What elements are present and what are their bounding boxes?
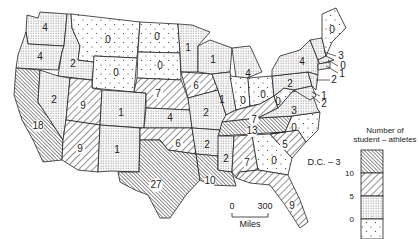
label-NE: 7 (155, 88, 161, 99)
scale-bar: 0 300 Miles (229, 201, 272, 229)
label-IA: 6 (193, 80, 199, 91)
label-GA: 0 (271, 155, 277, 166)
legend-bin-5-10 (361, 173, 383, 196)
label-CO: 1 (118, 107, 124, 118)
label-NJ: 2 (331, 74, 337, 85)
label-MS: 2 (223, 153, 229, 164)
label-MD: 2 (321, 98, 327, 109)
legend-bin-gt10 (361, 150, 383, 173)
label-PA: 2 (287, 78, 293, 89)
us-map: 4 4 2 0 0 2 18 9 9 1 1 0 0 7 4 6 27 1 6 … (0, 0, 419, 239)
label-OK: 6 (175, 138, 181, 149)
label-NY: 4 (299, 56, 305, 67)
legend-title-1: Number of (366, 126, 404, 135)
label-WV: 0 (275, 96, 281, 107)
label-NC: 0 (291, 122, 297, 133)
label-SD: 0 (157, 60, 163, 71)
legend: Number of student – athletes 10 5 0 (345, 126, 416, 239)
label-NV: 2 (51, 94, 57, 105)
label-AL: 7 (244, 157, 250, 168)
label-OR: 4 (37, 51, 43, 62)
scale-end: 300 (257, 201, 272, 211)
state-NY (272, 40, 318, 76)
label-MT: 0 (105, 34, 111, 45)
label-AZ: 9 (77, 143, 83, 154)
label-IL: 1 (219, 94, 225, 105)
label-NM: 1 (114, 144, 120, 155)
legend-tick-0: 0 (350, 215, 355, 224)
label-ME: 0 (329, 24, 335, 35)
label-ID: 2 (70, 58, 76, 69)
label-KY: 7 (251, 114, 257, 125)
label-LA: 10 (204, 175, 216, 186)
label-MO: 2 (203, 107, 209, 118)
label-VA: 3 (291, 105, 297, 116)
legend-bin-0 (361, 219, 383, 239)
label-OH: 0 (260, 89, 266, 100)
legend-tick-5: 5 (350, 192, 355, 201)
legend-title-2: student – athletes (353, 135, 416, 144)
label-MN: 1 (185, 42, 191, 53)
label-TX: 27 (150, 179, 162, 190)
label-MI: 4 (245, 68, 251, 79)
scale-start: 0 (229, 201, 234, 211)
dc-label: D.C. – 3 (307, 157, 340, 167)
label-KS: 4 (167, 112, 173, 123)
legend-tick-10: 10 (345, 169, 354, 178)
label-CA: 18 (32, 120, 44, 131)
legend-bin-1-5 (361, 196, 383, 219)
label-UT: 9 (80, 100, 86, 111)
label-ND: 0 (154, 31, 160, 42)
label-FL: 9 (289, 200, 295, 211)
label-TN: 13 (246, 125, 258, 136)
label-WA: 4 (42, 22, 48, 33)
label-SC: 5 (282, 139, 288, 150)
scale-unit: Miles (239, 219, 261, 229)
label-IN: 0 (240, 95, 246, 106)
label-RI: 1 (339, 68, 345, 79)
label-WI: 1 (210, 54, 216, 65)
label-AR: 2 (204, 139, 210, 150)
label-WY: 0 (113, 67, 119, 78)
